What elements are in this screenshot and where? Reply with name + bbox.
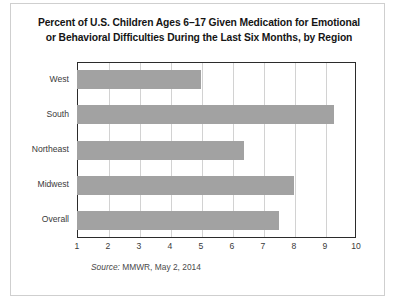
bar-row [77,176,356,195]
source-value: MMWR, May 2, 2014 [120,262,201,272]
x-tick-label-6: 6 [223,241,241,251]
category-label-midwest: Midwest [11,179,69,189]
x-tick-label-2: 2 [99,241,117,251]
x-tick-label-1: 1 [68,241,86,251]
chart-title-line-2: or Behavioral Difficulties During the La… [29,30,369,45]
x-tick-label-10: 10 [347,241,365,251]
x-tick-label-4: 4 [161,241,179,251]
source-keyword: Source: [91,262,120,272]
category-label-west: West [11,74,69,84]
chart-title-line-1: Percent of U.S. Children Ages 6–17 Given… [29,15,369,30]
bar-midwest [77,176,294,195]
figure-frame: Percent of U.S. Children Ages 6–17 Given… [10,3,385,296]
source-note: Source: MMWR, May 2, 2014 [91,262,201,272]
x-tick-label-9: 9 [316,241,334,251]
bar-row [77,70,356,89]
x-tick-label-7: 7 [254,241,272,251]
bar-south [77,105,334,124]
chart-title: Percent of U.S. Children Ages 6–17 Given… [29,15,369,45]
bar-row [77,105,356,124]
bar-west [77,70,201,89]
category-label-overall: Overall [11,214,69,224]
category-label-south: South [11,109,69,119]
x-tick-label-3: 3 [130,241,148,251]
bar-row [77,141,356,160]
bar-northeast [77,141,244,160]
bar-row [77,211,356,230]
bar-overall [77,211,279,230]
x-tick-label-8: 8 [285,241,303,251]
x-tick-label-5: 5 [192,241,210,251]
category-label-northeast: Northeast [11,144,69,154]
